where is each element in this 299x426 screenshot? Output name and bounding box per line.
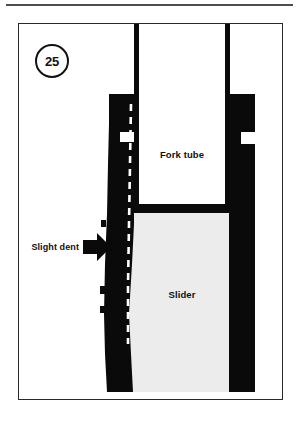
slider-label: Slider [169, 289, 196, 300]
fork-tube-wall-right [225, 24, 230, 212]
dent-nick-2 [100, 286, 106, 294]
figure-number-badge: 25 [35, 44, 69, 78]
slider-wall-left [104, 94, 134, 392]
slider-bore-fill [129, 212, 229, 392]
figure-page: Fork tube Slider Slight dent 25 [0, 0, 299, 426]
figure-frame: Fork tube Slider Slight dent 25 [18, 23, 283, 400]
slight-dent-label: Slight dent [31, 242, 79, 252]
fork-tube-wall-left [134, 24, 139, 212]
dent-nick-3 [100, 306, 106, 313]
slider-wall-right [229, 94, 255, 392]
figure-number-text: 25 [45, 55, 59, 68]
fork-tube-bottom-bar [134, 204, 230, 213]
page-top-rule [6, 4, 293, 6]
fork-tube-label: Fork tube [160, 149, 204, 160]
dent-nick-1 [101, 220, 106, 227]
fork-tube-bore-fill [139, 24, 229, 204]
fork-slider-cutaway-drawing: Fork tube Slider Slight dent [19, 24, 282, 399]
